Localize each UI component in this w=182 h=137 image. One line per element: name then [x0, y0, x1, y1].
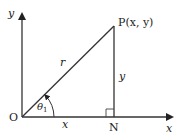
angle-subscript: 1 [43, 106, 47, 114]
y-axis-label: y [7, 7, 15, 20]
segment-op [22, 26, 114, 117]
segment-on-label: x [62, 118, 69, 131]
point-n-label: N [109, 121, 119, 134]
point-p-label: P(x, y) [118, 16, 153, 29]
origin-label: O [9, 111, 18, 124]
x-axis-label: x [166, 122, 173, 135]
diagram-svg: y x O P(x, y) N r x y θ1 [0, 0, 182, 137]
segment-op-label: r [60, 56, 66, 69]
right-angle-marker [106, 109, 114, 117]
angle-label: θ1 [37, 101, 48, 114]
polar-coordinate-diagram: y x O P(x, y) N r x y θ1 [0, 0, 182, 137]
segment-pn-label: y [118, 70, 126, 83]
